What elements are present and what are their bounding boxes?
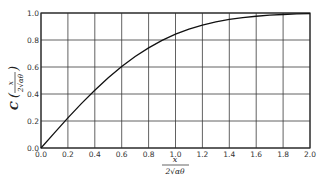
x-tick-label: 1.2 <box>196 150 208 159</box>
x-tick-label: 1.6 <box>250 150 262 159</box>
chart: 0.00.20.40.60.81.01.21.41.61.82.0 0.00.2… <box>0 0 323 185</box>
y-tick-label: 0.4 <box>27 90 39 99</box>
svg-text:x: x <box>173 155 178 164</box>
x-tick-label: 0.4 <box>89 150 101 159</box>
grid-lines <box>41 13 310 148</box>
y-tick-label: 0.0 <box>27 144 39 153</box>
y-tick-label: 0.8 <box>27 36 39 45</box>
x-tick-label: 2.0 <box>304 150 316 159</box>
y-axis-ticks: 0.00.20.40.60.81.0 <box>27 9 39 153</box>
x-tick-label: 1.8 <box>277 150 289 159</box>
x-tick-label: 1.4 <box>223 150 235 159</box>
svg-text:x: x <box>6 80 15 85</box>
y-tick-label: 1.0 <box>27 9 39 18</box>
x-tick-label: 0.8 <box>143 150 155 159</box>
x-tick-label: 0.6 <box>116 150 128 159</box>
y-axis-label: C ( x 2√αθ ) <box>6 66 25 110</box>
svg-text:): ) <box>6 66 21 72</box>
x-tick-label: 0.2 <box>62 150 74 159</box>
svg-text:2√αθ: 2√αθ <box>164 167 185 176</box>
y-tick-label: 0.6 <box>27 63 39 72</box>
svg-text:C: C <box>8 101 21 110</box>
x-axis-label: x 2√αθ <box>162 155 189 176</box>
svg-text:2√αθ: 2√αθ <box>17 73 25 93</box>
y-tick-label: 0.2 <box>27 117 39 126</box>
